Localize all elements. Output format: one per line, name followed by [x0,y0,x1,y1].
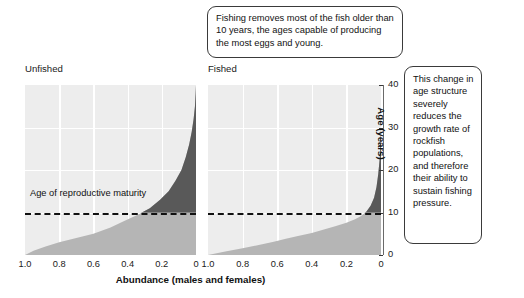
y-tick-mark [379,85,383,86]
x-tick-label: 1.0 [12,259,38,269]
label-age-of-reproductive-maturity: Age of reproductive maturity [30,188,150,200]
y-tick-mark [379,255,383,256]
figure-rockfish-age-structure: Fishing removes most of the fish older t… [0,0,524,298]
x-tick-label: 0.4 [115,259,141,269]
x-tick-label: 0.2 [149,259,175,269]
x-tick-label: 0 [368,259,394,269]
y-tick-mark [379,170,383,171]
x-tick-label: 0.8 [230,259,256,269]
panel-title-unfished: Unfished [25,63,63,74]
area-curve-unfished [25,85,196,255]
x-tick-label: 1.0 [195,259,221,269]
y-axis-title: Age (years) [376,107,387,159]
x-tick-label: 0.8 [46,259,72,269]
x-axis-title: Abundance (males and females) [0,274,381,285]
x-tick-label: 0.6 [264,259,290,269]
x-tick-label: 0.6 [80,259,106,269]
reproductive-maturity-line-unfished [25,213,196,215]
callout-age-structure-change: This change in age structure severely re… [404,66,482,244]
area-curve-fished [208,85,381,255]
panel-title-fished: Fished [208,63,237,74]
callout-fishing-removes-older-fish: Fishing removes most of the fish older t… [207,6,403,58]
plot-panel-fished [208,85,381,255]
reproductive-maturity-line-fished [208,213,381,215]
y-tick-label: 0 [388,249,410,259]
x-tick-label: 0.2 [333,259,359,269]
x-tick-label: 0.4 [299,259,325,269]
plot-panel-unfished [25,85,196,255]
